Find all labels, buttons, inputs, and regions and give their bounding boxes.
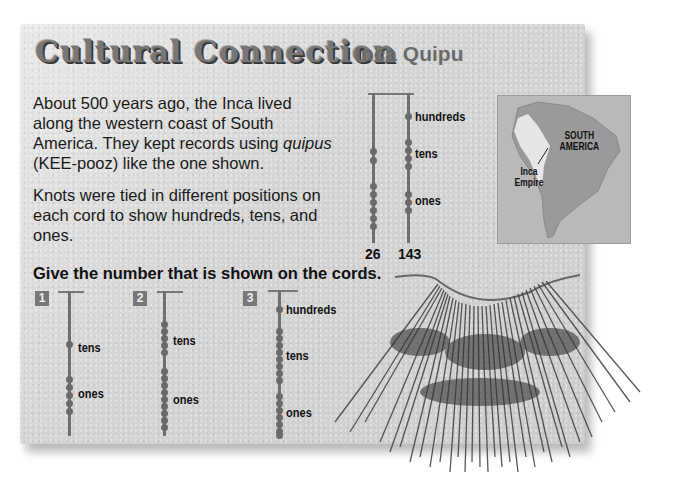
page-title: Cultural Connection [35, 34, 396, 69]
label-ones: ones [415, 193, 441, 208]
page-subtitle: Inca Quipu [355, 42, 464, 66]
problem-number-badge: 1 [35, 291, 49, 306]
problem-number-badge: 2 [133, 291, 147, 306]
intro-paragraph-2: Knots were tied in different positions o… [33, 185, 333, 245]
map-label-inca-empire: IncaEmpire [515, 166, 544, 188]
intro-paragraph-1: About 500 years ago, the Inca lived alon… [33, 93, 333, 173]
label-tens: tens [415, 146, 438, 161]
example-value-1: 26 [365, 246, 381, 262]
intro-text: About 500 years ago, the Inca lived alon… [33, 93, 333, 257]
example-value-2: 143 [398, 246, 421, 262]
south-america-map: SOUTHAMERICA IncaEmpire [497, 95, 631, 244]
quipu-photo-icon [330, 272, 650, 477]
problem-number-badge: 3 [243, 291, 257, 306]
quipus-term: quipus [283, 134, 332, 152]
label-hundreds: hundreds [415, 109, 465, 124]
map-label-south-america: SOUTHAMERICA [560, 130, 600, 152]
